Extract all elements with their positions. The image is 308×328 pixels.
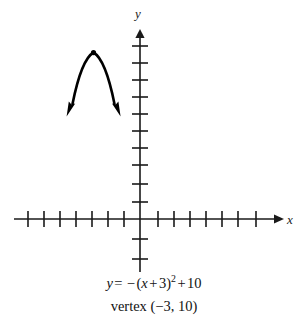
parabola-left-arrowhead-icon: [67, 102, 76, 117]
equation-equals: =: [113, 275, 124, 291]
equation-constant: 10: [187, 275, 202, 291]
y-axis-group: y: [132, 6, 148, 272]
y-axis-label: y: [133, 6, 141, 21]
parabola-vertex-point: [91, 50, 96, 55]
equation-plus: +: [176, 275, 187, 291]
equation-inner-var: x: [141, 275, 147, 291]
equation-inner-op: +: [148, 275, 159, 291]
x-axis-group: x: [14, 211, 293, 227]
parabola-curve-group: [67, 50, 121, 117]
parabola-figure: x y: [0, 0, 308, 328]
parabola-curve: [73, 53, 115, 105]
equation-sign: −: [125, 275, 136, 291]
x-axis-arrowhead-icon: [274, 214, 284, 223]
y-axis-arrowhead-icon: [135, 29, 144, 38]
vertex-line: vertex (−3, 10): [0, 298, 308, 315]
equation-lhs: y: [106, 275, 112, 291]
x-axis-label: x: [286, 212, 293, 227]
parabola-right-arrowhead-icon: [112, 102, 121, 117]
figure-caption: y= −(x+3)2+10 vertex (−3, 10): [0, 276, 308, 315]
equation-line: y= −(x+3)2+10: [0, 276, 308, 291]
